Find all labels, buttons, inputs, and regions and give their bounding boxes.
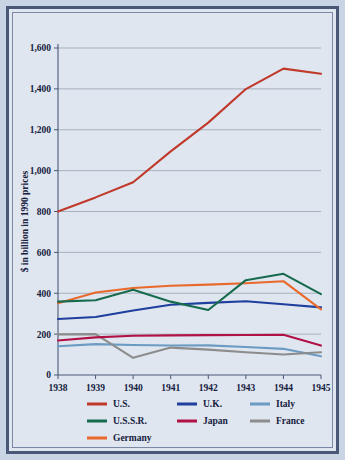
legend-label-germany: Germany xyxy=(113,433,152,443)
x-axis-tick-label: 1945 xyxy=(312,383,331,393)
legend-label-u-s: U.S. xyxy=(113,399,130,409)
series-line-u-s xyxy=(58,69,321,212)
y-axis-tick-label: 1,200 xyxy=(30,125,52,135)
x-axis-tick-labels: 19381939194019411942194319441945 xyxy=(49,383,331,393)
x-axis-tick-label: 1944 xyxy=(274,383,293,393)
x-axis-tick-label: 1938 xyxy=(49,383,68,393)
screenshot-frame: 02004006008001,0001,2001,4001,600 193819… xyxy=(0,0,345,460)
y-axis-tick-label: 1,000 xyxy=(30,166,52,176)
legend-label-france: France xyxy=(276,416,305,426)
chart-container: 02004006008001,0001,2001,4001,600 193819… xyxy=(12,12,333,448)
y-axis-tick-label: 200 xyxy=(37,330,52,340)
chart-legend: U.S.U.S.S.R.GermanyU.K.JapanItalyFrance xyxy=(87,399,305,443)
x-axis-tick-label: 1942 xyxy=(199,383,218,393)
y-axis-tick-label: 600 xyxy=(37,248,52,258)
x-axis-tick-label: 1941 xyxy=(161,383,180,393)
y-axis-tick-label: 800 xyxy=(37,207,52,217)
y-axis-tick-label: 0 xyxy=(46,370,51,380)
legend-label-italy: Italy xyxy=(276,399,295,409)
legend-label-japan: Japan xyxy=(203,416,229,426)
y-axis-tick-label: 1,400 xyxy=(30,84,52,94)
y-axis-tick-label: 400 xyxy=(37,289,52,299)
y-axis-title-text: $ in billion in 1990 prices xyxy=(20,170,30,272)
y-axis-tick-labels: 02004006008001,0001,2001,4001,600 xyxy=(30,43,52,380)
series-line-u-k xyxy=(58,301,321,319)
military-spending-line-chart: 02004006008001,0001,2001,4001,600 193819… xyxy=(12,12,333,448)
x-axis-tick-label: 1943 xyxy=(236,383,255,393)
x-axis-tick-label: 1939 xyxy=(86,383,105,393)
x-axis-tick-label: 1940 xyxy=(124,383,143,393)
data-series xyxy=(58,69,321,358)
legend-label-u-k: U.K. xyxy=(203,399,222,409)
y-axis-tick-label: 1,600 xyxy=(30,43,52,53)
y-axis-title: $ in billion in 1990 prices xyxy=(20,170,30,272)
legend-label-u-s-s-r: U.S.S.R. xyxy=(113,416,147,426)
